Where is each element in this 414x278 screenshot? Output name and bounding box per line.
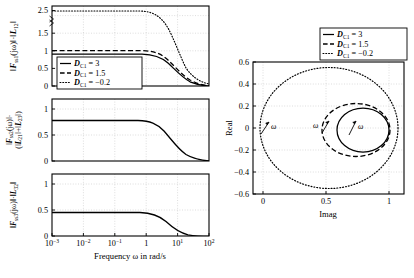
omega-label-dashed: ω	[313, 121, 319, 130]
xtick-1e-3: 10−3	[45, 238, 59, 248]
curve-p2-all	[52, 121, 209, 161]
xtick-1: 1	[144, 239, 148, 248]
frame-panel-2	[52, 99, 209, 161]
magnitude-panel-3: 0 0.5 1 ‖Fss3(jω)‖·‖L32‖ 10−3 10−2 10−1 …	[9, 174, 215, 261]
legend-left-label-2: DC1 = −0.2	[73, 78, 110, 88]
figure-root: 0 0.5 1 1.5 2.5 ‖Fss1(jω)‖·‖L12‖ DC1 = 3…	[0, 0, 414, 278]
omega-annotation-dashed: ω	[313, 121, 329, 133]
ytick-nyq-0.2: 0.2	[239, 102, 249, 111]
ytick-p1-0: 0	[44, 82, 48, 91]
xtick-1e-2: 10−2	[76, 238, 90, 248]
ytick-p1-0.5: 0.5	[38, 64, 48, 73]
magnitude-panel-1: 0 0.5 1 1.5 2.5 ‖Fss1(jω)‖·‖L12‖ DC1 = 3…	[8, 6, 209, 91]
legend-right: DC1 = 3 DC1 = 1.5 DC1 = −0.2	[320, 28, 407, 60]
ylabel-panel-3: ‖Fss3(jω)‖·‖L32‖	[9, 182, 19, 229]
omega-label-solid: ω	[358, 122, 364, 131]
nyquist-panel: ω ω ω 0.6 0.4 0.2 0	[224, 28, 407, 219]
xtick-1e2: 102	[204, 238, 215, 248]
frame-panel-3	[52, 174, 209, 236]
xtick-nyq-1: 1	[387, 197, 391, 206]
ytick-p2-0.5: 0.5	[38, 131, 48, 140]
ytick-p3-0.5: 0.5	[38, 206, 48, 215]
ytick-p2-1: 1	[44, 105, 48, 114]
xtick-1e1: 101	[172, 238, 183, 248]
ytick-nyq-0.6: 0.6	[239, 58, 249, 67]
legend-right-label-0: DC1 = 3	[336, 30, 362, 40]
xtick-nyq-0.5: 0.5	[321, 197, 331, 206]
ytick-nyq-0.4: 0.4	[239, 80, 249, 89]
omega-label-dotted: ω	[271, 122, 277, 131]
magnitude-panel-2: 0 0.5 1 ‖Fss2(jω)‖· (‖L21‖+‖L23‖)	[5, 99, 210, 166]
legend-right-label-1: DC1 = 1.5	[336, 40, 368, 50]
omega-annotation-solid: ω	[349, 121, 364, 135]
ylabel-panel-2-numerator: ‖Fss2(jω)‖·	[5, 115, 14, 146]
ytick-nyq-neg0.6: −0.6	[234, 190, 249, 199]
xlabel-nyquist: Imag	[319, 209, 337, 219]
ytick-nyq-0: 0	[245, 124, 249, 133]
curve-p3-all	[52, 213, 209, 237]
curve-nyq-dashed	[322, 104, 390, 157]
ytick-p1-1.5: 1.5	[38, 29, 48, 38]
grid-panel-2	[52, 99, 209, 161]
ytick-nyq-neg0.4: −0.4	[234, 168, 249, 177]
ylabel-nyquist: Real	[224, 120, 234, 136]
legend-right-label-2: DC1 = −0.2	[336, 49, 373, 59]
grid-panel-3	[52, 174, 209, 236]
xlabel-left: Frequency ω in rad/s	[94, 251, 166, 261]
xtick-1e-1: 10−1	[108, 238, 122, 248]
ytick-p1-2.5: 2.5	[38, 6, 48, 15]
legend-left-label-1: DC1 = 1.5	[73, 69, 105, 79]
figure-svg: 0 0.5 1 1.5 2.5 ‖Fss1(jω)‖·‖L12‖ DC1 = 3…	[0, 0, 414, 278]
legend-left: DC1 = 3 DC1 = 1.5 DC1 = −0.2	[57, 57, 142, 89]
ytick-p2-0: 0	[44, 157, 48, 166]
ytick-p3-1: 1	[44, 180, 48, 189]
ytick-nyq-neg0.2: −0.2	[234, 146, 249, 155]
legend-left-label-0: DC1 = 3	[73, 59, 99, 69]
ytick-p1-1: 1	[44, 47, 48, 56]
ylabel-panel-2: ‖Fss2(jω)‖· (‖L21‖+‖L23‖)	[5, 111, 23, 149]
ylabel-panel-1: ‖Fss1(jω)‖·‖L12‖	[8, 21, 19, 71]
xtick-nyq-0: 0	[261, 197, 265, 206]
ylabel-panel-2-denominator: (‖L21‖+‖L23‖)	[14, 111, 23, 149]
